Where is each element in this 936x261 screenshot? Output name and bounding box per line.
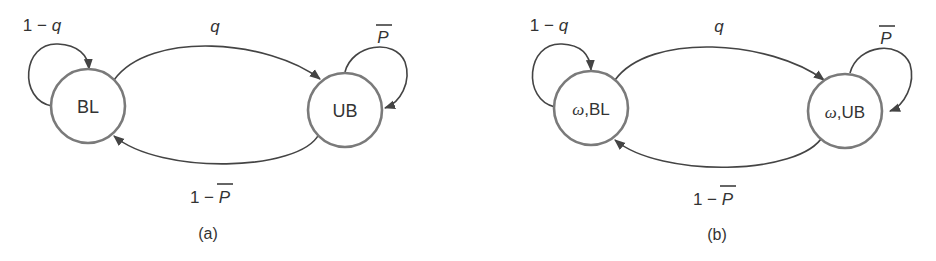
label-wub-self-loop: P (879, 26, 895, 48)
svg-text:1 − P: 1 − P (190, 188, 231, 207)
markov-chain-figure: BL UB 1 − q q P 1 − P (a) ω, (0, 0, 936, 261)
state-node-omega-ub: ω,UB (808, 74, 882, 148)
state-node-ub: UB (308, 73, 382, 147)
state-label-ub: UB (332, 101, 357, 121)
label-wbl-self-loop: 1 − q (530, 16, 569, 35)
transition-arrow-bl-to-ub (114, 46, 320, 80)
label-wbl-to-wub: q (714, 17, 724, 36)
panel-a: BL UB 1 − q q P 1 − P (a) (23, 16, 407, 242)
svg-text:ω,UB: ω,UB (825, 103, 865, 122)
panel-b: ω,BL ω,UB 1 − q q P 1 − P (b) (530, 16, 912, 243)
label-bl-to-ub: q (210, 17, 220, 36)
svg-text:P: P (880, 29, 892, 48)
caption-a: (a) (198, 225, 218, 242)
transition-arrow-wbl-to-wub (615, 47, 824, 80)
svg-text:ω,BL: ω,BL (572, 100, 610, 119)
transition-arrow-wub-to-wbl (615, 136, 823, 167)
label-bl-self-loop: 1 − q (23, 16, 62, 35)
state-label-bl: BL (77, 97, 99, 117)
state-node-bl: BL (51, 69, 125, 143)
label-ub-self-loop: P (376, 25, 392, 47)
svg-text:1 − P: 1 − P (693, 190, 734, 209)
transition-arrow-ub-to-bl (114, 134, 319, 164)
caption-b: (b) (707, 226, 727, 243)
label-ub-to-bl: 1 − P (190, 184, 233, 207)
label-wub-to-wbl: 1 − P (693, 186, 736, 209)
state-label-omega-ub: ,UB (837, 103, 865, 122)
state-label-omega-bl: ,BL (584, 100, 610, 119)
omega-symbol: ω (825, 103, 837, 122)
svg-text:UB: UB (332, 101, 357, 121)
svg-text:BL: BL (77, 97, 99, 117)
state-node-omega-bl: ω,BL (554, 71, 628, 145)
omega-symbol: ω (572, 100, 584, 119)
svg-text:P: P (377, 28, 389, 47)
